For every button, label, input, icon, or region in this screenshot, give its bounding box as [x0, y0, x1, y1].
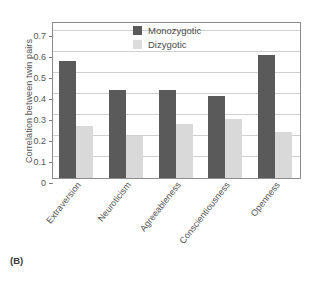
bar-group-conscientiousness: [208, 23, 242, 178]
y-tick-0.6: 0.6: [33, 52, 46, 62]
bar-neuroticism-dizygotic: [126, 136, 143, 178]
y-axis-tick-labels: 00.10.20.30.40.50.60.7: [22, 24, 46, 180]
legend-label-dizygotic: Dizygotic: [148, 39, 187, 50]
bar-conscientiousness-dizygotic: [225, 119, 242, 178]
bar-agreeableness-dizygotic: [176, 124, 193, 178]
chart-legend: Monozygotic Dizygotic: [133, 25, 201, 53]
bar-openness-monozygotic: [258, 55, 275, 179]
y-tick-0.4: 0.4: [33, 94, 46, 104]
x-axis-category-labels: ExtraversionNeuroticismAgreeablenessCons…: [52, 180, 301, 250]
y-tick-0.1: 0.1: [33, 157, 46, 167]
y-tick-0.3: 0.3: [33, 115, 46, 125]
bar-conscientiousness-monozygotic: [208, 96, 225, 178]
bar-extraversion-dizygotic: [76, 126, 93, 178]
y-tick-0.7: 0.7: [33, 31, 46, 41]
bar-group-openness: [258, 23, 292, 178]
legend-label-monozygotic: Monozygotic: [148, 25, 201, 36]
bar-extraversion-monozygotic: [59, 61, 76, 178]
legend-item-dizygotic: Dizygotic: [133, 39, 201, 50]
bar-neuroticism-monozygotic: [109, 90, 126, 178]
legend-swatch-dizygotic: [133, 40, 142, 49]
y-tick-0.2: 0.2: [33, 136, 46, 146]
bar-agreeableness-monozygotic: [159, 90, 176, 178]
bar-openness-dizygotic: [275, 132, 292, 178]
legend-swatch-monozygotic: [133, 26, 142, 35]
legend-item-monozygotic: Monozygotic: [133, 25, 201, 36]
y-tick-0: 0: [41, 178, 46, 188]
panel-label: (B): [10, 255, 23, 266]
bar-group-extraversion: [59, 23, 93, 178]
twin-correlation-bar-chart: Correlation between twin pairs 00.10.20.…: [0, 0, 318, 281]
y-tick-0.5: 0.5: [33, 73, 46, 83]
